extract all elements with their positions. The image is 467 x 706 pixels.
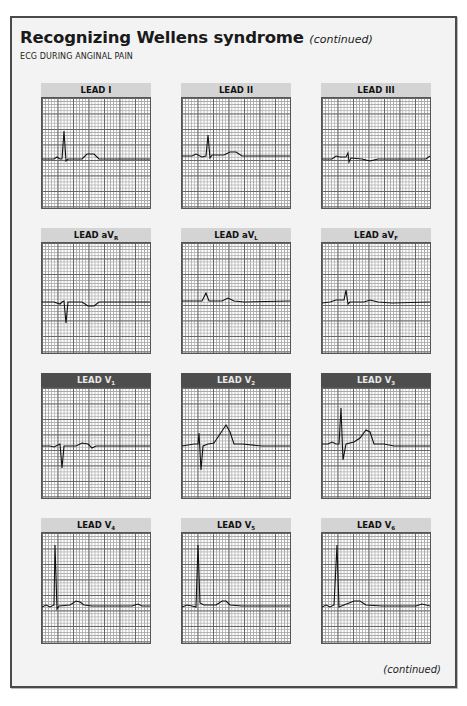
lead-subscript: 2	[251, 380, 255, 386]
lead-subscript: 3	[391, 380, 395, 386]
ecg-trace	[322, 533, 430, 643]
lead-header: LEAD V5	[181, 518, 291, 532]
lead-label: LEAD aV	[74, 230, 114, 240]
lead-label: LEAD II	[219, 85, 253, 95]
ecg-panel-lead-v5: LEAD V5	[181, 518, 291, 644]
lead-header: LEAD V3	[321, 373, 431, 387]
ecg-trace	[322, 98, 430, 208]
lead-header: LEAD V1	[41, 373, 151, 387]
lead-header: LEAD I	[41, 83, 151, 97]
lead-label: LEAD V	[217, 520, 251, 530]
lead-header: LEAD V6	[321, 518, 431, 532]
ecg-trace	[182, 243, 290, 353]
lead-label: LEAD aV	[354, 230, 394, 240]
lead-header: LEAD V4	[41, 518, 151, 532]
ecg-panel-lead-v2: LEAD V2	[181, 373, 291, 499]
lead-subscript: 1	[111, 380, 115, 386]
figure-title-continued: (continued)	[309, 33, 372, 46]
lead-header: LEAD II	[181, 83, 291, 97]
lead-header: LEAD V2	[181, 373, 291, 387]
ecg-panel-lead-iii: LEAD III	[321, 83, 431, 209]
lead-subscript: R	[114, 235, 118, 241]
ecg-trace	[42, 533, 150, 643]
lead-label: LEAD V	[77, 375, 111, 385]
lead-label: LEAD V	[77, 520, 111, 530]
ecg-grid	[181, 387, 291, 499]
lead-label: LEAD V	[357, 520, 391, 530]
ecg-grid	[181, 532, 291, 644]
lead-label: LEAD aV	[214, 230, 254, 240]
ecg-grid	[181, 242, 291, 354]
figure-subtitle: ECG DURING ANGINAL PAIN	[20, 52, 133, 61]
lead-subscript: 6	[391, 525, 395, 531]
ecg-grid	[321, 97, 431, 209]
lead-label: LEAD I	[81, 85, 112, 95]
ecg-trace	[182, 388, 290, 498]
continued-note: (continued)	[383, 664, 441, 675]
ecg-grid	[321, 242, 431, 354]
ecg-trace	[42, 243, 150, 353]
ecg-panel-lead-v1: LEAD V1	[41, 373, 151, 499]
figure-title-text: Recognizing Wellens syndrome	[20, 28, 304, 47]
ecg-trace	[182, 533, 290, 643]
lead-header: LEAD aVF	[321, 228, 431, 242]
ecg-trace	[322, 243, 430, 353]
ecg-panel-lead-avr: LEAD aVR	[41, 228, 151, 354]
ecg-grid	[181, 97, 291, 209]
ecg-grid	[41, 387, 151, 499]
ecg-grid	[41, 532, 151, 644]
ecg-grid	[41, 242, 151, 354]
ecg-trace	[182, 98, 290, 208]
lead-label: LEAD III	[357, 85, 394, 95]
lead-header: LEAD aVL	[181, 228, 291, 242]
ecg-panel-lead-avl: LEAD aVL	[181, 228, 291, 354]
lead-header: LEAD aVR	[41, 228, 151, 242]
lead-subscript: 4	[111, 525, 115, 531]
ecg-trace	[42, 98, 150, 208]
lead-subscript: L	[254, 235, 258, 241]
lead-subscript: F	[394, 235, 398, 241]
ecg-panel-lead-avf: LEAD aVF	[321, 228, 431, 354]
figure-title: Recognizing Wellens syndrome (continued)	[20, 28, 373, 47]
ecg-panel-lead-v3: LEAD V3	[321, 373, 431, 499]
ecg-trace	[42, 388, 150, 498]
ecg-grid	[41, 97, 151, 209]
lead-label: LEAD V	[217, 375, 251, 385]
lead-header: LEAD III	[321, 83, 431, 97]
ecg-grid	[321, 532, 431, 644]
ecg-grid	[321, 387, 431, 499]
lead-subscript: 5	[251, 525, 255, 531]
ecg-panel-lead-v4: LEAD V4	[41, 518, 151, 644]
lead-label: LEAD V	[357, 375, 391, 385]
ecg-panel-lead-ii: LEAD II	[181, 83, 291, 209]
ecg-trace	[322, 388, 430, 498]
ecg-panel-lead-i: LEAD I	[41, 83, 151, 209]
ecg-panel-lead-v6: LEAD V6	[321, 518, 431, 644]
